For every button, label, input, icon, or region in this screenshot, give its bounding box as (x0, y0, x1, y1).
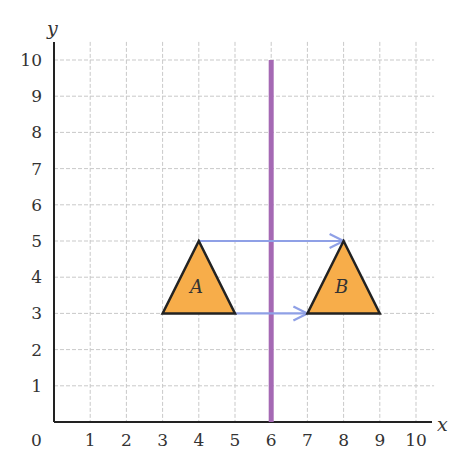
y-axis-label: y (46, 17, 58, 39)
x-axis-label: x (437, 413, 448, 435)
axes (54, 42, 432, 422)
x-tick-label: 6 (266, 430, 277, 450)
y-tick-label: 1 (31, 376, 42, 396)
x-tick-label: 9 (374, 430, 385, 450)
origin-label: 0 (31, 430, 42, 450)
tick-labels: 1234567891012345678910 (20, 50, 426, 450)
x-tick-label: 5 (230, 430, 241, 450)
x-tick-label: 3 (157, 430, 168, 450)
y-tick-label: 5 (31, 231, 42, 251)
triangle-a-label: A (188, 276, 203, 297)
x-tick-label: 1 (85, 430, 96, 450)
x-tick-label: 4 (193, 430, 204, 450)
y-tick-label: 8 (31, 122, 42, 142)
y-tick-label: 3 (31, 303, 42, 323)
coordinate-plane: 1234567891012345678910 y x 0 A B (0, 0, 473, 462)
triangle-b-label: B (334, 276, 348, 297)
y-tick-label: 6 (31, 195, 42, 215)
y-tick-label: 9 (31, 86, 42, 106)
y-tick-label: 7 (31, 159, 42, 179)
y-tick-label: 4 (31, 267, 42, 287)
y-tick-label: 2 (31, 340, 42, 360)
x-tick-label: 7 (302, 430, 313, 450)
grid-lines (54, 42, 434, 422)
y-tick-label: 10 (20, 50, 42, 70)
x-tick-label: 2 (121, 430, 132, 450)
x-tick-label: 8 (338, 430, 349, 450)
coordinate-diagram: 1234567891012345678910 y x 0 A B (0, 0, 473, 462)
x-tick-label: 10 (405, 430, 427, 450)
